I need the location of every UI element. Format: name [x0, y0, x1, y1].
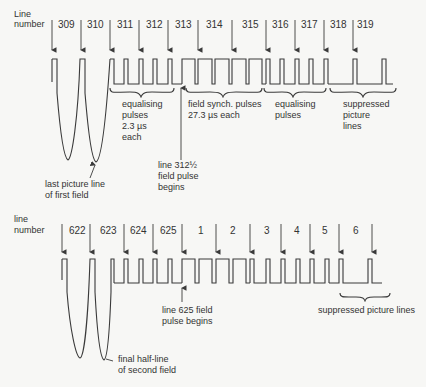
svg-text:622: 622 — [69, 225, 86, 236]
bottom-suppressed-brace — [340, 293, 390, 301]
svg-text:319: 319 — [357, 19, 374, 30]
top-axis-label: number — [14, 19, 45, 29]
svg-text:316: 316 — [272, 19, 289, 30]
label-field-pulse-begins: line 625 field pulse begins — [162, 305, 213, 326]
bottom-axis-label: line — [14, 214, 28, 224]
label-half-line-field-pulse: line 312½ field pulse begins — [158, 160, 199, 192]
svg-text:315: 315 — [242, 19, 259, 30]
svg-text:2: 2 — [230, 225, 236, 236]
svg-text:pulse begins: pulse begins — [162, 316, 213, 326]
tv-field-sync-diagram: Line number 309 310 311 312 313 314 315 … — [0, 0, 426, 387]
svg-text:suppressed: suppressed — [343, 99, 390, 109]
label-suppressed-picture-lines: suppressed picture lines — [343, 99, 390, 131]
label-field-synch-pulses: field synch. pulses 27.3 µs each — [188, 99, 262, 120]
svg-text:313: 313 — [175, 19, 192, 30]
svg-text:1: 1 — [198, 225, 204, 236]
svg-text:picture: picture — [343, 110, 370, 120]
bottom-diagram: line number 622 623 624 625 1 2 3 4 5 6 — [14, 214, 416, 375]
svg-text:of first field: of first field — [45, 190, 89, 200]
svg-text:309: 309 — [58, 19, 75, 30]
svg-text:5: 5 — [322, 225, 328, 236]
label-equalising-pulses-1: equalising pulses 2.3 µs each — [122, 99, 163, 142]
svg-text:line 625 field: line 625 field — [162, 305, 213, 315]
svg-text:line 312½: line 312½ — [158, 160, 198, 170]
svg-text:314: 314 — [206, 19, 223, 30]
svg-text:310: 310 — [87, 19, 104, 30]
svg-text:3: 3 — [264, 225, 270, 236]
top-diagram: Line number 309 310 311 312 313 314 315 … — [14, 9, 396, 200]
label-suppressed-picture-lines-bottom: suppressed picture lines — [318, 305, 416, 315]
svg-text:623: 623 — [100, 225, 117, 236]
svg-text:of second field: of second field — [118, 365, 176, 375]
label-equalising-pulses-2: equalising pulses — [275, 99, 316, 120]
svg-text:624: 624 — [130, 225, 147, 236]
top-axis-label: Line — [14, 9, 31, 19]
svg-text:6: 6 — [353, 225, 359, 236]
svg-text:pulses: pulses — [122, 110, 149, 120]
svg-text:last picture line: last picture line — [45, 179, 105, 189]
svg-text:equalising: equalising — [275, 99, 316, 109]
svg-text:each: each — [122, 132, 142, 142]
svg-text:4: 4 — [294, 225, 300, 236]
label-last-picture-line: last picture line of first field — [45, 179, 105, 200]
svg-text:equalising: equalising — [122, 99, 163, 109]
svg-text:final half-line: final half-line — [118, 354, 169, 364]
label-final-half-line: final half-line of second field — [118, 354, 176, 375]
svg-text:312: 312 — [146, 19, 163, 30]
svg-text:625: 625 — [160, 225, 177, 236]
top-braces — [110, 88, 396, 97]
svg-text:pulses: pulses — [275, 110, 302, 120]
svg-text:begins: begins — [158, 182, 185, 192]
svg-text:318: 318 — [330, 19, 347, 30]
last-line-arrow — [90, 165, 95, 178]
svg-text:field pulse: field pulse — [158, 171, 199, 181]
bottom-line-numbers: 622 623 624 625 1 2 3 4 5 6 — [69, 225, 359, 236]
svg-text:311: 311 — [117, 19, 133, 30]
bottom-axis-label: number — [14, 225, 45, 235]
top-line-numbers: 309 310 311 312 313 314 315 316 317 318 … — [58, 19, 374, 30]
svg-text:2.3 µs: 2.3 µs — [122, 121, 147, 131]
svg-text:field synch. pulses: field synch. pulses — [188, 99, 262, 109]
svg-text:317: 317 — [301, 19, 318, 30]
svg-text:27.3 µs each: 27.3 µs each — [188, 110, 240, 120]
final-half-line-arrow — [106, 359, 113, 361]
svg-text:lines: lines — [343, 121, 362, 131]
